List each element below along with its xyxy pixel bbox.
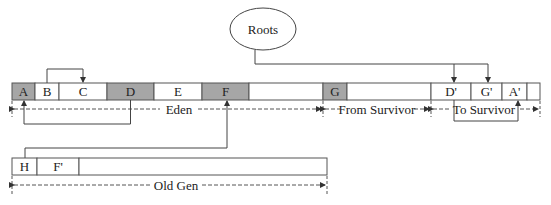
cell-to-empty (527, 83, 540, 100)
cell-c-label: C (79, 84, 88, 99)
cell-g-prime-label: G' (481, 84, 493, 99)
old-cell-h-label: H (20, 159, 29, 174)
cell-a-prime-label: A' (509, 84, 521, 99)
region-label-old-gen: Old Gen (154, 178, 199, 193)
ref-roots-to-d-prime (255, 50, 454, 82)
cell-a-label: A (19, 84, 29, 99)
ref-d-to-a (24, 100, 131, 124)
region-label-from-survivor: From Survivor (339, 102, 417, 117)
cell-g-label: G (330, 84, 339, 99)
young-gen-bar (12, 83, 540, 100)
ref-b-to-c (47, 69, 83, 83)
cell-d-prime-label: D' (445, 84, 457, 99)
cell-f-label: F (222, 84, 229, 99)
cell-d-label: D (126, 84, 135, 99)
gc-heap-diagram: Roots A B C D E F G D' G' A' (0, 0, 551, 205)
old-cell-empty (79, 158, 327, 175)
region-label-to-survivor: To Survivor (453, 102, 516, 117)
roots-label: Roots (248, 22, 278, 37)
ref-roots-to-g-prime (454, 64, 488, 82)
cell-e-label: E (174, 84, 182, 99)
cell-b-label: B (43, 84, 52, 99)
region-label-eden: Eden (166, 102, 193, 117)
reference-arrows (24, 50, 518, 158)
cell-from-empty (347, 83, 431, 100)
cell-eden-empty (249, 83, 323, 100)
roots-node: Roots (230, 8, 296, 50)
old-cell-f-prime-label: F' (53, 159, 63, 174)
